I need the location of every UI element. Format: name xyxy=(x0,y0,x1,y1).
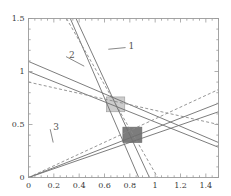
chart-figure: 00.20.40.60.811.21.400.511.5123 xyxy=(0,0,231,196)
y-tick-label: 1.5 xyxy=(0,14,25,23)
annotation-label-3: 3 xyxy=(53,122,59,132)
x-tick-label: 0.8 xyxy=(118,181,142,190)
x-tick-label: 0.4 xyxy=(67,181,91,190)
annotation-leader-1 xyxy=(108,48,125,50)
y-tick-label: 0.5 xyxy=(0,120,25,129)
x-tick-label: 1.4 xyxy=(194,181,218,190)
line-ray-solid-b xyxy=(29,103,219,177)
annotation-label-2: 2 xyxy=(69,50,75,60)
y-tick-label: 0 xyxy=(0,173,25,182)
annotation-label-1: 1 xyxy=(129,41,135,51)
x-tick-label: 0 xyxy=(17,181,41,190)
x-tick-label: 0.6 xyxy=(93,181,117,190)
y-tick-label: 1 xyxy=(0,67,25,76)
line-steep-solid-b xyxy=(76,19,149,178)
x-tick-label: 1 xyxy=(143,181,167,190)
chart-canvas xyxy=(0,0,231,196)
x-tick-label: 1.2 xyxy=(169,181,193,190)
x-tick-label: 0.2 xyxy=(42,181,66,190)
